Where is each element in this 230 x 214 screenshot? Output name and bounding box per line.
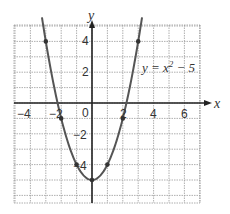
x-tick-neg2: −2 <box>49 107 63 121</box>
grid <box>14 25 200 203</box>
x-tick-2: 2 <box>120 107 127 121</box>
y-axis-label: y <box>86 8 95 23</box>
x-tick-0: 0 <box>82 106 89 120</box>
parabola-chart: y x −4 −2 0 2 4 6 4 2 −2 −4 y = x2 − 5 <box>0 0 230 214</box>
y-tick-neg2: −2 <box>73 128 87 142</box>
y-tick-2: 2 <box>82 65 89 79</box>
x-axis-label: x <box>213 96 221 111</box>
y-tick-4: 4 <box>82 34 89 48</box>
x-tick-4: 4 <box>150 107 157 121</box>
x-tick-neg4: −4 <box>17 107 31 121</box>
x-tick-6: 6 <box>181 107 188 121</box>
equation-label: y = x2 − 5 <box>140 59 196 75</box>
y-tick-neg4: −4 <box>73 159 87 173</box>
